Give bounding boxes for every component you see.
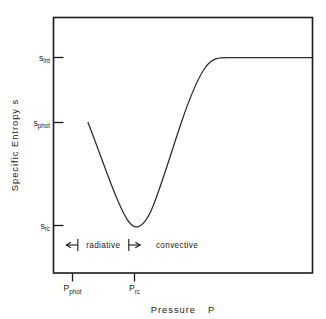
x-tick-marks xyxy=(73,274,135,282)
x-axis-title-main: Pressure xyxy=(151,305,196,315)
y-tick-labels: sint sphot src xyxy=(33,53,50,233)
plot-frame xyxy=(54,18,313,274)
radiative-zone-label: radiative xyxy=(86,241,120,250)
x-tick-label-p-phot: Pphot xyxy=(64,283,82,296)
x-tick-label-p-rc: Prc xyxy=(129,283,140,295)
x-tick-label-p-phot-sub: phot xyxy=(69,288,82,296)
y-tick-label-s-rc: src xyxy=(40,221,50,233)
y-tick-marks xyxy=(54,58,64,226)
plot-canvas: sint sphot src Pphot Prc radiat xyxy=(0,0,326,319)
x-axis-title-symbol: P xyxy=(208,305,215,315)
y-tick-label-s-phot: sphot xyxy=(33,118,50,131)
convective-zone-label: convective xyxy=(156,241,198,250)
entropy-pressure-figure: sint sphot src Pphot Prc radiat xyxy=(0,0,326,319)
y-tick-label-s-rc-sub: rc xyxy=(45,225,50,232)
y-tick-label-s-phot-sub: phot xyxy=(38,122,51,130)
x-tick-label-p-rc-sub: rc xyxy=(135,288,140,295)
x-tick-labels: Pphot Prc xyxy=(64,283,140,296)
y-tick-label-s-int-sub: int xyxy=(43,57,50,64)
y-tick-label-s-int: sint xyxy=(39,53,50,65)
entropy-curve xyxy=(88,58,313,227)
x-axis-title: PressureP xyxy=(151,305,215,315)
y-axis-title: Specific Entropy s xyxy=(10,99,20,191)
